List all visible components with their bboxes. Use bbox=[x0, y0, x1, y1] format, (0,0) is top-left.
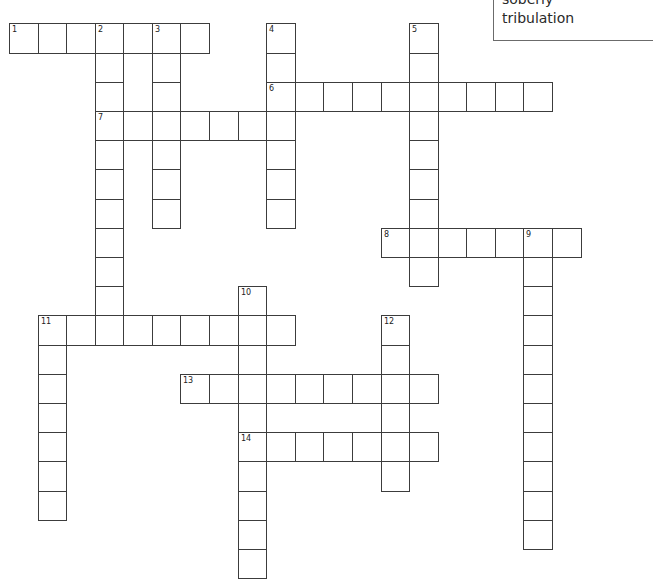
crossword-cell[interactable] bbox=[295, 374, 324, 404]
crossword-cell[interactable] bbox=[152, 315, 181, 346]
crossword-cell[interactable] bbox=[409, 374, 439, 404]
crossword-cell[interactable] bbox=[295, 82, 324, 112]
crossword-cell[interactable] bbox=[409, 53, 439, 83]
crossword-cell[interactable] bbox=[238, 345, 267, 375]
crossword-cell[interactable] bbox=[323, 374, 353, 404]
crossword-cell[interactable]: 1 bbox=[9, 23, 39, 54]
crossword-cell[interactable] bbox=[152, 53, 181, 83]
crossword-cell[interactable]: 5 bbox=[409, 23, 439, 54]
crossword-cell[interactable] bbox=[523, 520, 553, 550]
crossword-cell[interactable] bbox=[38, 345, 67, 375]
crossword-cell[interactable]: 11 bbox=[38, 315, 67, 346]
crossword-cell[interactable] bbox=[38, 403, 67, 433]
crossword-cell[interactable] bbox=[438, 82, 467, 112]
crossword-cell[interactable] bbox=[409, 82, 439, 112]
crossword-cell[interactable] bbox=[266, 374, 296, 404]
crossword-cell[interactable]: 6 bbox=[266, 82, 296, 112]
crossword-cell[interactable] bbox=[95, 286, 124, 316]
crossword-cell[interactable] bbox=[523, 286, 553, 316]
crossword-cell[interactable] bbox=[152, 169, 181, 200]
crossword-cell[interactable]: 9 bbox=[523, 228, 553, 258]
crossword-cell[interactable] bbox=[209, 111, 239, 141]
crossword-cell[interactable] bbox=[152, 111, 181, 141]
crossword-cell[interactable]: 4 bbox=[266, 23, 296, 54]
crossword-cell[interactable] bbox=[95, 228, 124, 258]
crossword-cell[interactable] bbox=[266, 432, 296, 462]
crossword-cell[interactable] bbox=[95, 199, 124, 229]
crossword-cell[interactable] bbox=[238, 549, 267, 579]
crossword-cell[interactable] bbox=[409, 228, 439, 258]
crossword-cell[interactable]: 12 bbox=[381, 315, 410, 346]
crossword-cell[interactable] bbox=[66, 23, 96, 54]
crossword-cell[interactable] bbox=[523, 461, 553, 492]
crossword-cell[interactable] bbox=[152, 199, 181, 229]
crossword-cell[interactable] bbox=[323, 82, 353, 112]
crossword-cell[interactable] bbox=[180, 23, 210, 54]
crossword-cell[interactable]: 7 bbox=[95, 111, 124, 141]
crossword-cell[interactable] bbox=[238, 403, 267, 433]
crossword-cell[interactable]: 14 bbox=[238, 432, 267, 462]
crossword-cell[interactable] bbox=[95, 53, 124, 83]
crossword-cell[interactable] bbox=[95, 257, 124, 287]
crossword-cell[interactable] bbox=[238, 315, 267, 346]
crossword-cell[interactable] bbox=[266, 53, 296, 83]
crossword-cell[interactable] bbox=[209, 374, 239, 404]
crossword-cell[interactable] bbox=[409, 432, 439, 462]
crossword-cell[interactable] bbox=[523, 432, 553, 462]
crossword-cell[interactable] bbox=[381, 374, 410, 404]
crossword-cell[interactable]: 8 bbox=[381, 228, 410, 258]
crossword-cell[interactable] bbox=[466, 82, 496, 112]
crossword-cell[interactable] bbox=[323, 432, 353, 462]
crossword-cell[interactable] bbox=[523, 345, 553, 375]
crossword-cell[interactable] bbox=[381, 461, 410, 492]
crossword-cell[interactable] bbox=[438, 228, 467, 258]
crossword-cell[interactable] bbox=[38, 432, 67, 462]
crossword-cell[interactable]: 3 bbox=[152, 23, 181, 54]
crossword-cell[interactable] bbox=[409, 169, 439, 200]
crossword-cell[interactable] bbox=[123, 315, 153, 346]
crossword-cell[interactable] bbox=[409, 257, 439, 287]
crossword-cell[interactable] bbox=[352, 82, 382, 112]
crossword-cell[interactable] bbox=[180, 111, 210, 141]
crossword-cell[interactable] bbox=[38, 461, 67, 492]
crossword-cell[interactable] bbox=[238, 111, 267, 141]
crossword-cell[interactable] bbox=[523, 257, 553, 287]
crossword-cell[interactable]: 13 bbox=[180, 374, 210, 404]
crossword-cell[interactable] bbox=[552, 228, 582, 258]
crossword-cell[interactable] bbox=[209, 315, 239, 346]
crossword-cell[interactable] bbox=[238, 461, 267, 492]
crossword-cell[interactable] bbox=[381, 82, 410, 112]
crossword-cell[interactable] bbox=[238, 520, 267, 550]
crossword-cell[interactable] bbox=[180, 315, 210, 346]
crossword-cell[interactable] bbox=[238, 374, 267, 404]
crossword-cell[interactable] bbox=[381, 345, 410, 375]
crossword-cell[interactable] bbox=[266, 199, 296, 229]
crossword-cell[interactable] bbox=[266, 111, 296, 141]
crossword-cell[interactable] bbox=[523, 374, 553, 404]
crossword-cell[interactable] bbox=[152, 140, 181, 170]
crossword-cell[interactable]: 2 bbox=[95, 23, 124, 54]
crossword-cell[interactable] bbox=[66, 315, 96, 346]
crossword-cell[interactable] bbox=[352, 374, 382, 404]
crossword-cell[interactable] bbox=[409, 199, 439, 229]
crossword-cell[interactable] bbox=[152, 82, 181, 112]
crossword-cell[interactable] bbox=[352, 432, 382, 462]
crossword-cell[interactable] bbox=[523, 491, 553, 521]
crossword-cell[interactable] bbox=[95, 140, 124, 170]
crossword-cell[interactable] bbox=[523, 315, 553, 346]
crossword-cell[interactable] bbox=[381, 403, 410, 433]
crossword-cell[interactable] bbox=[495, 82, 524, 112]
crossword-cell[interactable] bbox=[38, 491, 67, 521]
crossword-cell[interactable] bbox=[95, 315, 124, 346]
crossword-cell[interactable] bbox=[238, 491, 267, 521]
crossword-cell[interactable] bbox=[409, 140, 439, 170]
crossword-cell[interactable] bbox=[523, 403, 553, 433]
crossword-cell[interactable] bbox=[266, 169, 296, 200]
crossword-cell[interactable] bbox=[495, 228, 524, 258]
crossword-cell[interactable] bbox=[523, 82, 553, 112]
crossword-cell[interactable] bbox=[466, 228, 496, 258]
crossword-cell[interactable] bbox=[38, 23, 67, 54]
crossword-cell[interactable] bbox=[38, 374, 67, 404]
crossword-cell[interactable] bbox=[409, 111, 439, 141]
crossword-cell[interactable]: 10 bbox=[238, 286, 267, 316]
